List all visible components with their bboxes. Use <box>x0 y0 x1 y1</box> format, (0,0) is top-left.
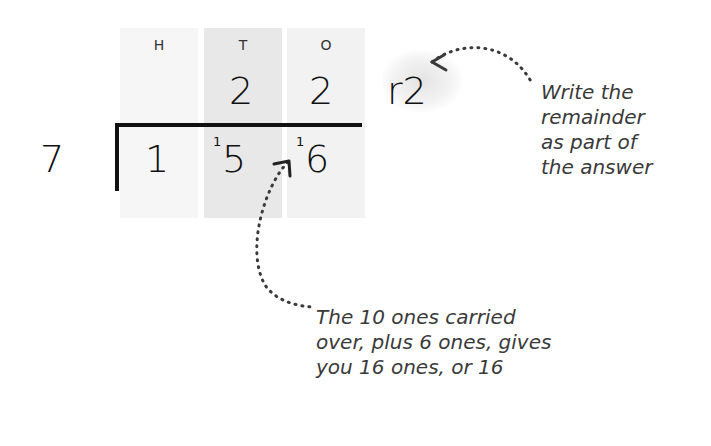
remainder-dotted-arrow <box>432 48 533 85</box>
carry-note-line: The 10 ones carried <box>316 305 616 330</box>
remainder-arrowhead-icon <box>432 55 446 70</box>
carry-dotted-arrow <box>257 162 312 307</box>
carry-note-line: over, plus 6 ones, gives <box>316 330 616 355</box>
remainder-note-line: as part of <box>541 130 711 155</box>
carry-note-line: you 16 ones, or 16 <box>316 355 616 380</box>
remainder-note-line: Write the <box>541 80 711 105</box>
carry-note: The 10 ones carried over, plus 6 ones, g… <box>316 305 616 380</box>
remainder-note-line: the answer <box>541 155 711 180</box>
remainder-note-line: remainder <box>541 105 711 130</box>
remainder-note: Write the remainder as part of the answe… <box>541 80 711 180</box>
